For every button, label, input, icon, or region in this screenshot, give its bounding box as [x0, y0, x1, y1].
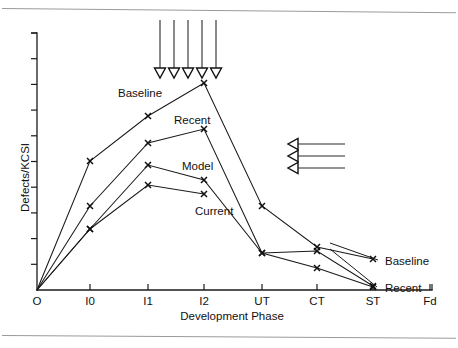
x-tick-label-i2: I2: [199, 295, 209, 307]
x-tick-label-i1: I1: [143, 295, 153, 307]
down-arrow-group: [155, 20, 222, 78]
left-arrow-head-icon: [288, 139, 298, 150]
x-tick-label-group: I0I1I2UTCTSTFd: [85, 295, 437, 307]
left-arrow-head-icon: [288, 151, 298, 162]
y-axis-title: Defects/KCSI: [19, 143, 31, 212]
left-arrow-group: [288, 139, 345, 174]
series-label-recent-tail: Recent: [385, 282, 422, 294]
series-label-current-peak: Current: [195, 205, 234, 217]
left-arrow-head-icon: [288, 163, 298, 174]
x-tick-label-origin: O: [33, 295, 42, 307]
x-tick-label-fd: Fd: [423, 295, 436, 307]
data-point-marker: [87, 203, 93, 209]
down-arrow-head-icon: [183, 68, 194, 78]
x-tick-label-ut: UT: [254, 295, 269, 307]
series-label-recent-peak: Recent: [174, 114, 211, 126]
data-point-marker: [87, 226, 93, 232]
x-tick-label-st: ST: [366, 295, 381, 307]
series-label-baseline-tail: Baseline: [385, 255, 429, 267]
x-axis-title: Development Phase: [180, 310, 284, 322]
series-label-baseline-peak: Baseline: [118, 87, 162, 99]
line-chart: Defects/KCSI Development Phase O I0I1I2U…: [0, 0, 458, 348]
data-point-marker: [145, 162, 151, 168]
series-layer: [37, 80, 376, 290]
series-baseline: [37, 80, 376, 290]
data-point-marker: [145, 113, 151, 119]
data-point-marker: [201, 177, 207, 183]
down-arrow-head-icon: [211, 68, 222, 78]
y-tick-marks: [31, 33, 37, 264]
chart-figure: Defects/KCSI Development Phase O I0I1I2U…: [0, 0, 458, 348]
data-point-marker: [201, 80, 207, 86]
data-point-marker: [314, 265, 320, 271]
series-label-model-peak: Model: [182, 160, 213, 172]
series-line-current: [37, 185, 204, 290]
down-arrow-head-icon: [169, 68, 180, 78]
x-tick-marks: [90, 284, 430, 290]
data-point-marker: [259, 203, 265, 209]
data-point-marker: [87, 158, 93, 164]
x-tick-label-ct: CT: [309, 295, 324, 307]
x-tick-label-i0: I0: [85, 295, 95, 307]
series-current: [37, 182, 207, 290]
down-arrow-head-icon: [155, 68, 166, 78]
series-line-model: [37, 165, 373, 290]
down-arrow-head-icon: [197, 68, 208, 78]
